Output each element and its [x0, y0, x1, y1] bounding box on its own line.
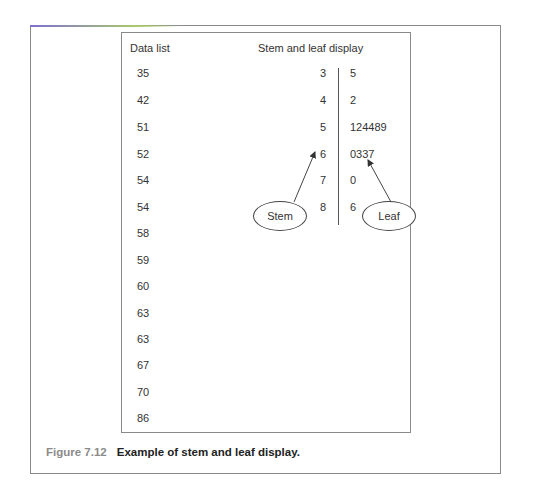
figure-caption: Figure 7.12Example of stem and leaf disp…: [46, 446, 300, 458]
figure-number: Figure 7.12: [46, 446, 107, 458]
leaf-callout-label: Leaf: [378, 210, 399, 222]
stem-arrow-icon: [294, 152, 315, 202]
stem-callout-label: Stem: [267, 210, 293, 222]
stem-callout: Stem: [253, 201, 307, 231]
annotation-arrows: [0, 0, 533, 487]
figure-caption-text: Example of stem and leaf display.: [117, 446, 300, 458]
leaf-callout: Leaf: [362, 201, 416, 231]
leaf-arrow-icon: [368, 160, 391, 202]
